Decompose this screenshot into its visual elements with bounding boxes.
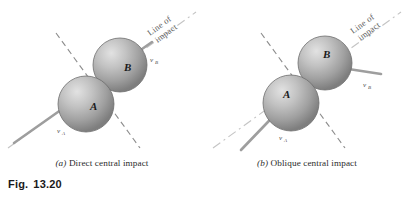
velocity-a-subscript: A — [61, 131, 66, 136]
velocity-a-symbol: v — [57, 127, 61, 135]
diagram-direct-central-impact: A B v A v B Line of impact — [0, 0, 204, 155]
line-of-impact-label: Line of impact — [145, 13, 179, 45]
caption-b-marker: (b) — [257, 158, 268, 168]
velocity-a-symbol: v — [279, 134, 283, 142]
velocity-a-label-group: v A — [279, 134, 288, 143]
velocity-b-label-group: v B — [150, 56, 158, 65]
figure-number-label: Fig.13.20 — [8, 178, 62, 190]
caption-panel-b: (b) Oblique central impact — [205, 158, 409, 168]
velocity-b-label-group: v B — [363, 81, 371, 90]
figure-page: A B v A v B Line of impact — [0, 0, 409, 197]
caption-a-marker: (a) — [55, 158, 66, 168]
sphere-b-label: B — [322, 48, 330, 60]
sphere-a — [58, 76, 114, 132]
figure-number-value: 13.20 — [33, 178, 62, 190]
velocity-b-subscript: B — [155, 60, 158, 65]
panel-oblique-central-impact: A B v A v B Line of impact — [205, 0, 409, 155]
sphere-a-label: A — [282, 88, 290, 100]
velocity-b-symbol: v — [150, 56, 154, 64]
sphere-a — [263, 75, 319, 131]
velocity-a-subscript: A — [283, 138, 288, 143]
velocity-a-label-group: v A — [57, 127, 66, 136]
figure-number-prefix: Fig. — [8, 178, 28, 190]
velocity-b-subscript: B — [368, 85, 371, 90]
diagram-oblique-central-impact: A B v A v B Line of impact — [205, 0, 409, 155]
caption-panel-a: (a) Direct central impact — [0, 158, 204, 168]
caption-b-body: Oblique central impact — [271, 158, 357, 168]
sphere-b-label: B — [123, 61, 131, 73]
line-of-impact-label: Line of impact — [348, 11, 382, 43]
sphere-a-label: A — [89, 100, 97, 112]
panel-direct-central-impact: A B v A v B Line of impact — [0, 0, 204, 155]
caption-a-body: Direct central impact — [69, 158, 149, 168]
velocity-b-symbol: v — [363, 81, 367, 89]
